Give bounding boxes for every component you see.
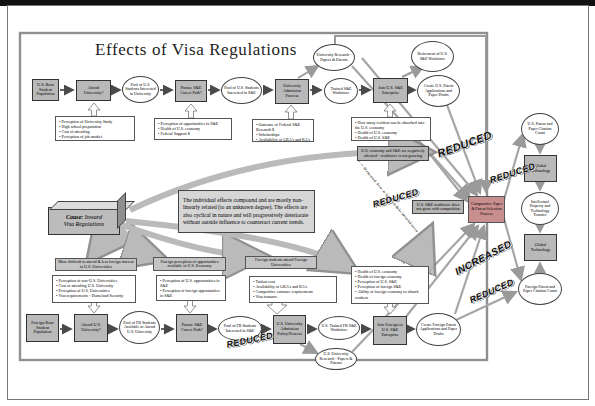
diagram-page: Effects of Visa Regulations U.S. Born St…	[0, 0, 595, 406]
label-economy-affected: U.S. economy and S&E are negatively affe…	[357, 146, 429, 161]
node-pursue-se-career: Pursue S&E Career Path?	[175, 80, 207, 102]
bullet-item: Perception of foreign opportunities in S…	[160, 288, 224, 298]
bullet-item: Availability of GRA's and RA's	[256, 137, 310, 142]
label-more-difficult: More difficult to attend & less foreign …	[55, 258, 137, 271]
label-attend-foreign: Foreign students attend Foreign Universi…	[245, 256, 317, 269]
node-pool-us-students-university: Pool of U.S. Students Interested in Univ…	[122, 76, 159, 103]
node-attend-us-university: Attend U.S. University?	[74, 314, 108, 342]
node-fb-pursue-se-career: Pursue S&E Career Path?	[176, 314, 208, 342]
node-us-citation-count: U.S. Patent and Paper Citation Count	[521, 113, 559, 145]
bullet-item: Visa issuance	[253, 294, 278, 299]
node-ip-transfer: Intellectual Property and Technology Tra…	[521, 192, 559, 225]
node-university-admission: University Admission Process	[275, 79, 309, 104]
cause-box: Cause: Inward Visa Regulations	[48, 207, 120, 235]
node-pool-fb-students-available: Pool of FB Students Available to Attend …	[119, 311, 160, 344]
node-join-foreign-us-enterprise: Join Foreign or U.S. S&E Enterprise	[373, 316, 407, 345]
bullet-item: Perception of job market	[59, 134, 102, 139]
label-foreign-perception: Foreign perception of opportunities avai…	[153, 257, 226, 271]
factors-se-path: Perception of opportunities in S&E Healt…	[154, 118, 232, 140]
cause-line2: Visa Regulations	[64, 221, 104, 228]
node-attend-university: Attend University?	[76, 80, 111, 101]
node-retirement-workforce: Retirement of U.S. S&E Workforce	[411, 41, 454, 72]
bullet-item: Outcome of Federal S&E Research $	[256, 122, 312, 132]
node-us-born-population: U.S. Born Student Population	[32, 79, 59, 101]
cause-line1: Cause: Inward	[66, 214, 102, 221]
factors-enterprise: How many resident can be absorbed into t…	[351, 117, 431, 141]
factors-fb-se-path: Perception of U.S. opportunities in S&E …	[156, 275, 226, 301]
node-foreign-citation-count: Foreign Patent and Paper Citation Count	[518, 273, 562, 305]
node-comparative-selection: Comparative Paper & Patent Selection Pro…	[468, 196, 505, 223]
node-create-foreign-patents: Create Foreign Patent Applications and P…	[416, 313, 461, 346]
node-join-us-se-enterprise: Join U.S. S&E Enterprise	[373, 78, 408, 103]
node-global-tech-bottom: Global Technology	[524, 234, 557, 261]
factors-university: Perception of University Study High scho…	[55, 116, 135, 141]
factors-admission: Outcome of Federal S&E Research $ Schola…	[252, 119, 314, 142]
bullet-item: Perception of U.S. opportunities in S&E	[160, 278, 224, 288]
factors-fb-enterprise: Health of U.S. economy Health of foreign…	[351, 266, 429, 304]
label-workforce-not-grow: U.S. S&E workforce does not grow with co…	[412, 200, 464, 214]
diagram-title: Effects of Visa Regulations	[95, 40, 297, 60]
cause-keyword: Cause:	[66, 214, 83, 220]
node-university-research: University Research - Papers & Patents	[313, 44, 355, 71]
node-us-trained-fb-workforce: U.S. Trained FB S&E Workforce	[318, 316, 360, 340]
bullet-item: Visa requirements - Homeland Security	[56, 293, 123, 298]
factors-fb-university: Perception of non-U.S. Universities Cost…	[52, 275, 136, 303]
node-pool-us-students-se: Pool of U.S. Students Interested in S&E	[221, 77, 262, 104]
node-foreign-born-population: Foreign Born Student Population	[26, 314, 59, 342]
bullet-item: Federal Support $	[158, 131, 190, 136]
node-us-university-admission-policy: U.S. University Admission Policy/Process	[273, 315, 306, 344]
node-us-university-research: U.S. University Research - Papers & Pate…	[315, 348, 357, 370]
node-create-us-patents: Create U.S. Patent Applications and Pape…	[417, 75, 460, 107]
cause-rest: Inward	[83, 214, 102, 220]
center-note: The individual effects compound and are …	[178, 190, 315, 233]
bullet-item: Ability of foreign economy to absorb wor…	[355, 289, 427, 299]
bullet-item: Health of U.S. S&E	[355, 135, 390, 140]
node-trained-se-workforce: Trained S&E Workforce	[324, 78, 358, 104]
factors-fb-admission: Tuition cost Availability of GRA's and R…	[249, 276, 337, 303]
bullet-item: How many resident can be absorbed into t…	[355, 120, 429, 130]
